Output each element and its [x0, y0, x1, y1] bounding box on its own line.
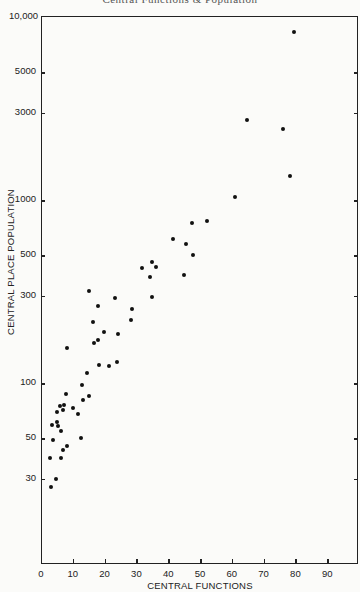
data-point [76, 412, 80, 416]
y-tick-label: 100 [0, 376, 36, 387]
data-point [190, 221, 194, 225]
data-point [80, 383, 84, 387]
data-point [87, 289, 91, 293]
data-point [87, 394, 91, 398]
y-tick [41, 296, 45, 298]
y-tick [354, 200, 358, 202]
x-tick-label: 20 [95, 568, 115, 579]
data-point [107, 364, 111, 368]
y-tick-label: 10,000 [0, 10, 38, 21]
data-point [245, 118, 249, 122]
data-point [96, 304, 100, 308]
data-point [154, 265, 158, 269]
y-tick [354, 255, 358, 257]
x-tick-label: 80 [285, 568, 305, 579]
y-tick [41, 479, 45, 481]
y-tick [354, 296, 358, 298]
data-point [191, 253, 195, 257]
running-head: Central Functions & Population [0, 0, 360, 5]
x-tick [105, 559, 107, 564]
data-point [55, 410, 59, 414]
data-point [115, 360, 119, 364]
y-tick-label: 5000 [0, 65, 36, 76]
y-tick [354, 479, 358, 481]
x-tick-label: 40 [158, 568, 178, 579]
data-point [85, 371, 89, 375]
data-point [150, 260, 154, 264]
data-point [182, 273, 186, 277]
data-point [91, 320, 95, 324]
data-point [92, 341, 96, 345]
x-tick-label: 0 [31, 568, 51, 579]
x-tick [73, 559, 75, 564]
data-point [96, 338, 100, 342]
y-tick [41, 438, 45, 440]
data-point [59, 429, 63, 433]
y-tick [41, 383, 45, 385]
data-point [49, 485, 53, 489]
x-tick-label: 10 [63, 568, 83, 579]
y-tick [354, 383, 358, 385]
y-tick [41, 200, 45, 202]
y-tick-label: 30 [0, 472, 36, 483]
x-tick [327, 559, 329, 564]
y-tick [354, 72, 358, 74]
data-point [81, 398, 85, 402]
y-tick-label: 3000 [0, 106, 36, 117]
y-tick [41, 72, 45, 74]
data-point [140, 266, 144, 270]
data-point [116, 332, 120, 336]
data-point [71, 406, 75, 410]
x-tick [264, 559, 266, 564]
x-tick-label: 50 [190, 568, 210, 579]
data-point [51, 438, 55, 442]
data-point [233, 195, 237, 199]
x-tick-label: 90 [317, 568, 337, 579]
data-point [129, 318, 133, 322]
y-tick [41, 255, 45, 257]
data-point [184, 242, 188, 246]
data-point [54, 477, 58, 481]
y-tick-label: 50 [0, 431, 36, 442]
data-point [79, 436, 83, 440]
data-point [113, 296, 117, 300]
x-tick-label: 60 [222, 568, 242, 579]
data-point [205, 219, 209, 223]
x-tick-label: 70 [254, 568, 274, 579]
x-tick [136, 559, 138, 564]
x-tick [168, 559, 170, 564]
data-point [148, 275, 152, 279]
y-tick [41, 113, 45, 115]
x-tick [295, 559, 297, 564]
data-point [62, 403, 66, 407]
data-point [171, 237, 175, 241]
data-point [48, 456, 52, 460]
data-point [130, 307, 134, 311]
data-point [292, 30, 296, 34]
y-axis-label: CENTRAL PLACE POPULATION [5, 189, 16, 335]
x-tick-label: 30 [126, 568, 146, 579]
data-point [102, 330, 106, 334]
x-tick [232, 559, 234, 564]
data-point [150, 295, 154, 299]
data-point [65, 444, 69, 448]
data-point [61, 448, 65, 452]
x-axis-label: CENTRAL FUNCTIONS [120, 580, 280, 591]
data-point [288, 174, 292, 178]
data-point [50, 423, 54, 427]
data-point [65, 346, 69, 350]
data-point [64, 392, 68, 396]
data-point [281, 127, 285, 131]
data-point [97, 363, 101, 367]
data-point [59, 456, 63, 460]
y-tick [354, 113, 358, 115]
data-point [61, 408, 65, 412]
y-tick [354, 438, 358, 440]
x-tick [200, 559, 202, 564]
